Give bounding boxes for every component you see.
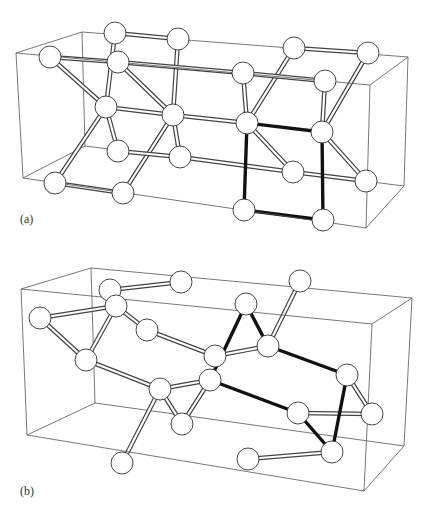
panel-b-structure [21, 268, 412, 491]
atom-sphere [287, 402, 309, 424]
bond-fill [248, 452, 332, 459]
atom [312, 209, 334, 231]
atom-sphere [235, 293, 257, 315]
unit-cell-edge [364, 446, 404, 491]
atom [235, 293, 257, 315]
atom-sphere [105, 295, 127, 317]
atom [233, 199, 255, 221]
atom-sphere [171, 413, 193, 435]
atom-sphere [311, 121, 333, 143]
highlighted-bond [268, 346, 347, 375]
bond-fill [322, 53, 368, 132]
atom [44, 172, 66, 194]
atom-sphere [232, 62, 254, 84]
highlighted-bond [210, 304, 246, 380]
unit-cell-edge [21, 268, 91, 289]
atom [199, 369, 221, 391]
bond-fill [247, 48, 294, 123]
atom-sphere [336, 364, 358, 386]
panel-label-b: (b) [20, 484, 34, 499]
atom [357, 42, 379, 64]
atom [361, 403, 383, 425]
atom [257, 335, 279, 357]
bond-fill [180, 157, 293, 172]
atom [167, 28, 189, 50]
unit-cell-edge [27, 403, 95, 435]
atom-sphere [111, 452, 133, 474]
atom [287, 402, 309, 424]
atom [39, 46, 61, 68]
atom [232, 62, 254, 84]
atom [75, 349, 97, 371]
atom [204, 345, 226, 367]
atom [171, 413, 193, 435]
figure-canvas [0, 0, 433, 514]
atom [111, 452, 133, 474]
atom [112, 182, 134, 204]
atom [236, 112, 258, 134]
atom-sphere [283, 37, 305, 59]
atom [237, 448, 259, 470]
atom-sphere [170, 271, 192, 293]
atom-sphere [112, 182, 134, 204]
atom-sphere [169, 146, 191, 168]
panel-a-structure [16, 22, 408, 231]
atom [314, 70, 336, 92]
panel-label-a: (a) [20, 212, 33, 227]
atom-sphere [136, 319, 158, 341]
atom-sphere [75, 349, 97, 371]
atom [311, 121, 333, 143]
atom [283, 37, 305, 59]
atom [95, 96, 117, 118]
atom [162, 104, 184, 126]
bond-fill [118, 62, 173, 115]
atom-sphere [233, 199, 255, 221]
atom-sphere [289, 270, 311, 292]
atom [170, 271, 192, 293]
highlighted-bond [210, 380, 298, 413]
highlighted-bond [244, 123, 247, 210]
atom [29, 307, 51, 329]
atom [289, 270, 311, 292]
atom [321, 441, 343, 463]
unit-cell-front-face [21, 289, 372, 491]
bond-fill [86, 360, 160, 389]
atom [107, 140, 129, 162]
atom [107, 51, 129, 73]
unit-cell-edge [372, 298, 412, 324]
bond-fill [40, 306, 116, 318]
crystal-structure-figure: (a) (b) [0, 0, 433, 514]
atom-sphere [95, 96, 117, 118]
unit-cell-edge [366, 186, 404, 228]
atom [105, 295, 127, 317]
atom-sphere [282, 161, 304, 183]
atom [136, 319, 158, 341]
atom [169, 146, 191, 168]
atom [355, 170, 377, 192]
bond-fill [55, 107, 106, 183]
atom [282, 161, 304, 183]
atom-sphere [167, 28, 189, 50]
atom-sphere [237, 448, 259, 470]
atom [149, 378, 171, 400]
atom-sphere [107, 51, 129, 73]
atom [104, 22, 126, 44]
atom [336, 364, 358, 386]
highlighted-bond [244, 210, 323, 220]
highlighted-bond [322, 132, 323, 220]
